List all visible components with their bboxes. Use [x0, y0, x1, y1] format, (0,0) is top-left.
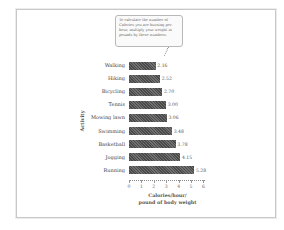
x-tick — [154, 180, 155, 183]
x-tick — [191, 180, 192, 183]
value-label: 4.15 — [182, 153, 192, 162]
x-tick — [166, 180, 167, 183]
x-tick-label: 2 — [149, 184, 159, 189]
x-tick-label: 3 — [161, 184, 171, 189]
category-label: Jogging — [77, 153, 125, 162]
x-tick — [203, 180, 204, 183]
x-tick-label: 1 — [136, 184, 146, 189]
value-label: 5.28 — [196, 166, 206, 175]
value-label: 3.78 — [177, 140, 187, 149]
bar — [129, 101, 166, 109]
category-label: Running — [77, 166, 125, 175]
category-label: Bicycling — [77, 87, 125, 96]
category-label: Walking — [77, 61, 125, 70]
x-tick — [141, 180, 142, 183]
value-label: 3.06 — [168, 113, 178, 122]
callout-text: To calculate the number of Calories you … — [119, 18, 172, 37]
x-tick-label: 0 — [124, 184, 134, 189]
x-tick-label: 6 — [198, 184, 208, 189]
value-label: 3.48 — [174, 127, 184, 136]
callout-box: To calculate the number of Calories you … — [115, 15, 183, 47]
x-axis-title-line2: pound of body weight — [120, 199, 215, 206]
x-tick — [129, 180, 130, 183]
value-label: 2.52 — [162, 74, 172, 83]
bar — [129, 166, 194, 174]
value-label: 3.00 — [168, 100, 178, 109]
category-label: Hiking — [77, 74, 125, 83]
x-tick — [179, 180, 180, 183]
value-label: 2.70 — [164, 87, 174, 96]
bar — [129, 127, 172, 135]
bar — [129, 114, 167, 122]
x-axis-title: Calories/hour/ pound of body weight — [120, 192, 215, 206]
y-axis-title: Activity — [79, 101, 85, 141]
value-label: 2.16 — [157, 61, 167, 70]
bar — [129, 153, 180, 161]
x-tick-label: 4 — [174, 184, 184, 189]
bar — [129, 62, 156, 70]
bar — [129, 88, 162, 96]
bar — [129, 140, 176, 148]
x-axis-title-line1: Calories/hour/ — [120, 192, 215, 199]
bar — [129, 75, 160, 83]
x-tick-label: 5 — [186, 184, 196, 189]
